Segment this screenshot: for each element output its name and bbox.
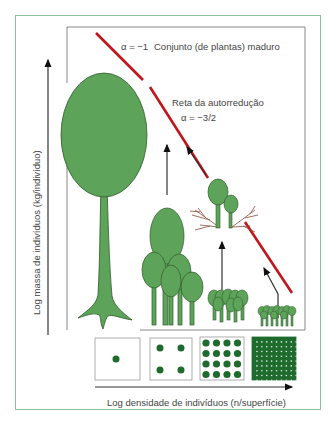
thinning-arrow-1: [187, 147, 206, 175]
x-axis-label: Log densidade de indivíduos (n/superfíci…: [107, 397, 286, 408]
large-tree-icon: [61, 73, 147, 329]
alpha-mature-label: α = −1: [121, 41, 148, 52]
mature-stand-label: Conjunto (de plantas) maduro: [154, 41, 280, 52]
density-box-1: [95, 338, 140, 380]
density-box-4: [150, 338, 192, 380]
alpha-self-thinning-label: α = −3/2: [181, 112, 216, 123]
self-thinning-line-label: Reta da autorredução: [172, 97, 264, 108]
medium-tree-cluster-icon: [142, 208, 203, 325]
density-box-100: [252, 337, 297, 381]
diagram-canvas: [0, 0, 330, 431]
density-box-16: [200, 337, 244, 380]
y-axis-label: Log massa de indivíduos (kg/indivíduo): [31, 150, 42, 315]
small-tree-cluster-icon: [208, 289, 248, 322]
seedling-cluster-icon: [258, 306, 296, 327]
